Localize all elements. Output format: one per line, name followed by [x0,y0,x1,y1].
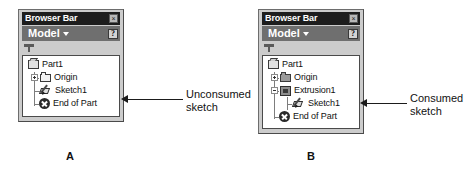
tree-node-label: Sketch1 [308,97,340,110]
model-tree-b: Part1 Origin Extrusion1 Sketch1 [262,55,360,129]
model-label-a: Model [28,26,69,41]
expander-plus-icon[interactable] [271,74,278,81]
callout-arrow-a [121,95,128,103]
expander-plus-icon[interactable] [31,74,38,81]
tree-node-part1-b[interactable]: Part1 [263,58,359,71]
end-of-part-icon [279,111,290,122]
part-icon [28,60,39,69]
tree-node-label: End of Part [293,110,337,123]
callout-line-2: sketch [186,101,251,114]
filter-funnel-icon[interactable] [264,44,274,52]
expander-minus-icon[interactable] [271,87,278,94]
help-icon[interactable]: ? [348,29,358,39]
model-label-text-b: Model [268,27,300,39]
model-dropdown-b[interactable]: Model ? [262,26,360,41]
tree-node-label: Part1 [42,58,63,71]
callout-leader-a [128,99,183,100]
close-icon[interactable]: × [109,14,118,23]
figure-browser-bar-comparison: Browser Bar × Model ? Part1 [0,0,469,171]
chevron-down-icon [63,32,69,36]
titlebar-title-a: Browser Bar [25,12,77,25]
model-tree-a: Part1 Origin Sketch1 End of Part [22,55,120,117]
tree-node-label: Part1 [282,58,303,71]
model-label-text-a: Model [28,27,60,39]
tree-node-extrusion1-b[interactable]: Extrusion1 [263,84,359,97]
sketch-icon [40,85,53,96]
filter-row-b [262,41,360,55]
sketch-icon [293,98,306,109]
filter-row-a [22,41,120,55]
callout-text-b: Consumed sketch [410,92,463,118]
model-label-b: Model [268,26,309,41]
figure-letter-b: B [307,150,315,162]
callout-line-1: Consumed [410,92,463,105]
tree-node-sketch1-b[interactable]: Sketch1 [263,97,359,110]
end-of-part-icon [39,98,50,109]
tree-node-sketch1-a[interactable]: Sketch1 [23,84,119,97]
close-icon[interactable]: × [349,14,358,23]
callout-arrow-b [360,99,367,107]
tree-node-end-of-part-b[interactable]: End of Part [263,110,359,123]
tree-node-label: Origin [54,71,77,84]
callout-text-a: Unconsumed sketch [186,88,251,114]
callout-line-2: sketch [410,105,463,118]
tree-node-origin-b[interactable]: Origin [263,71,359,84]
titlebar-title-b: Browser Bar [265,12,317,25]
help-icon[interactable]: ? [108,29,118,39]
tree-node-origin-a[interactable]: Origin [23,71,119,84]
tree-node-label: Extrusion1 [294,84,336,97]
tree-node-end-of-part-a[interactable]: End of Part [23,97,119,110]
tree-node-label: Origin [294,71,317,84]
part-icon [268,60,279,69]
callout-leader-b [367,103,407,104]
tree-node-label: End of Part [53,97,97,110]
chevron-down-icon [303,32,309,36]
tree-node-label: Sketch1 [55,84,87,97]
extrusion-icon [280,86,291,96]
folder-icon [40,74,51,82]
callout-line-1: Unconsumed [186,88,251,101]
model-dropdown-a[interactable]: Model ? [22,26,120,41]
titlebar-a: Browser Bar × [22,12,120,25]
figure-letter-a: A [66,150,74,162]
titlebar-b: Browser Bar × [262,12,360,25]
browser-bar-panel-a: Browser Bar × Model ? Part1 [18,9,124,122]
browser-bar-panel-b: Browser Bar × Model ? Part1 [258,9,364,134]
folder-icon [280,74,291,82]
tree-node-part1-a[interactable]: Part1 [23,58,119,71]
filter-funnel-icon[interactable] [24,44,34,52]
